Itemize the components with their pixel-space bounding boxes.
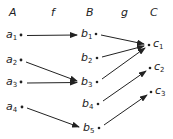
function-composition-diagram: A f B g C a1 a2 a3 a4 b1 b2 b3 b4 b5 (0, 0, 173, 139)
arrow-g-b4-c2 (103, 71, 146, 101)
set-C-element-c2: c2 (149, 60, 165, 74)
svg-text:b1: b1 (81, 27, 92, 41)
svg-text:a2: a2 (6, 53, 17, 67)
set-B-element-b2: b2 (81, 51, 98, 65)
set-C-element-c3: c3 (150, 84, 166, 98)
set-A-element-a1: a1 (6, 28, 22, 42)
point-dot (150, 91, 153, 94)
arrow-f-a3-b3 (27, 83, 77, 84)
set-B-header: B (86, 6, 94, 19)
arrow-g-b3-c1 (102, 48, 145, 79)
svg-text:b4: b4 (82, 97, 94, 111)
svg-text:a3: a3 (6, 75, 17, 89)
svg-text:c1: c1 (153, 37, 164, 51)
svg-text:c3: c3 (155, 84, 166, 98)
point-dot (96, 57, 99, 60)
set-B-element-b3: b3 (81, 75, 98, 89)
set-A-element-a3: a3 (6, 75, 22, 89)
point-dot (96, 81, 99, 84)
set-C-element-c1: c1 (148, 37, 164, 51)
arrow-g-b5-c3 (104, 95, 147, 125)
svg-text:b5: b5 (83, 121, 94, 135)
point-dot (149, 67, 152, 70)
svg-text:b2: b2 (81, 51, 92, 65)
point-dot (148, 44, 151, 47)
map-g-header: g (121, 6, 128, 19)
set-C-header: C (150, 6, 158, 19)
map-f-header: f (51, 6, 57, 19)
point-dot (95, 33, 98, 36)
set-A-element-a4: a4 (6, 100, 23, 114)
arrow-g-b2-c1 (102, 46, 144, 57)
point-dot (20, 59, 23, 62)
svg-text:a1: a1 (6, 28, 17, 42)
set-B-element-b5: b5 (83, 121, 100, 135)
point-dot (20, 34, 23, 37)
point-dot (98, 127, 101, 130)
arrow-g-b1-c1 (101, 35, 144, 44)
set-A-header: A (8, 6, 17, 19)
svg-text:a4: a4 (6, 100, 18, 114)
svg-text:b3: b3 (81, 75, 92, 89)
arrow-f-a1-b1 (27, 35, 77, 36)
point-dot (20, 81, 23, 84)
arrow-f-a4-b5 (27, 108, 79, 127)
set-B-element-b4: b4 (82, 97, 99, 111)
point-dot (97, 103, 100, 106)
set-A-element-a2: a2 (6, 53, 22, 67)
point-dot (21, 106, 24, 109)
svg-text:c2: c2 (154, 60, 165, 74)
set-B-element-b1: b1 (81, 27, 97, 41)
arrow-f-a2-b3 (26, 62, 77, 81)
